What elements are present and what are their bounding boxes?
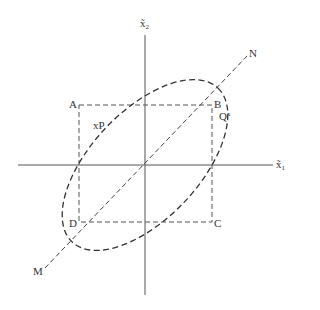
point-d-label: D — [69, 218, 77, 229]
point-c-label: C — [214, 218, 221, 229]
point-m-label: M — [33, 266, 43, 277]
y-axis-label: x̃2 — [140, 18, 149, 31]
region-xp-label: xP — [93, 120, 105, 131]
point-n-label: N — [249, 48, 257, 59]
point-b-label: B — [214, 99, 221, 110]
point-a-label: A — [69, 99, 77, 110]
region-q-label: Qx — [219, 111, 230, 122]
x-axis-label: x̃1 — [276, 159, 285, 172]
